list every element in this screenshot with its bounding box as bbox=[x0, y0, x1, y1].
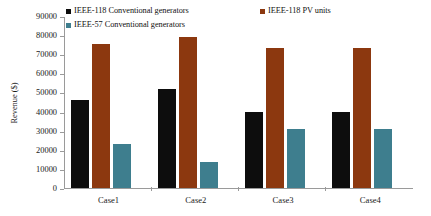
bar-group-bars bbox=[326, 17, 413, 188]
bar-group bbox=[65, 17, 152, 188]
y-tick-mark bbox=[60, 55, 64, 56]
y-tick: 40000 bbox=[18, 113, 64, 114]
bar[interactable] bbox=[287, 129, 305, 188]
bar-group-bars bbox=[65, 17, 152, 188]
y-tick: 50000 bbox=[18, 93, 64, 94]
bar-group-bars bbox=[239, 17, 326, 188]
bar[interactable] bbox=[179, 37, 197, 188]
y-tick-label: 40000 bbox=[36, 107, 57, 118]
legend-item-ieee118-pv: IEEE-118 PV units bbox=[260, 6, 331, 16]
y-tick: 90000 bbox=[18, 17, 64, 18]
y-tick: 10000 bbox=[18, 170, 64, 171]
x-axis-category-labels: Case1Case2Case3Case4 bbox=[65, 194, 414, 210]
x-axis-category-label: Case2 bbox=[152, 194, 239, 210]
y-tick-label: 20000 bbox=[36, 145, 57, 156]
y-tick-label: 80000 bbox=[36, 30, 57, 41]
y-tick: 80000 bbox=[18, 36, 64, 37]
bar[interactable] bbox=[113, 144, 131, 188]
legend-label: IEEE-118 PV units bbox=[268, 6, 331, 16]
bar[interactable] bbox=[200, 162, 218, 188]
y-tick-mark bbox=[60, 17, 64, 18]
bar-group bbox=[239, 17, 326, 188]
plot-area: Revenue ($) 0100002000030000400005000060… bbox=[64, 17, 413, 189]
y-axis-title: Revenue ($) bbox=[10, 82, 19, 123]
y-tick-label: 10000 bbox=[36, 164, 57, 175]
x-axis-category-label: Case3 bbox=[240, 194, 327, 210]
y-tick: 60000 bbox=[18, 74, 64, 75]
y-tick-mark bbox=[60, 189, 64, 190]
y-tick: 70000 bbox=[18, 55, 64, 56]
y-tick-label: 30000 bbox=[36, 126, 57, 137]
bar-chart: IEEE-118 Conventional generators IEEE-11… bbox=[0, 0, 431, 216]
y-tick-mark bbox=[60, 151, 64, 152]
y-tick-label: 70000 bbox=[36, 49, 57, 60]
y-tick-label: 0 bbox=[53, 183, 57, 194]
bar-group bbox=[326, 17, 413, 188]
bar-groups bbox=[65, 17, 413, 188]
y-tick-label: 60000 bbox=[36, 68, 57, 79]
legend-swatch-icon bbox=[66, 9, 71, 14]
bar[interactable] bbox=[92, 44, 110, 188]
y-tick-mark bbox=[60, 132, 64, 133]
y-tick: 30000 bbox=[18, 132, 64, 133]
y-tick-label: 50000 bbox=[36, 87, 57, 98]
legend-label: IEEE-118 Conventional generators bbox=[74, 6, 189, 16]
y-tick: 20000 bbox=[18, 151, 64, 152]
x-axis-category-label: Case4 bbox=[327, 194, 414, 210]
bar[interactable] bbox=[245, 112, 263, 188]
y-tick-mark bbox=[60, 74, 64, 75]
bar-group bbox=[152, 17, 239, 188]
y-tick-mark bbox=[60, 93, 64, 94]
bar[interactable] bbox=[332, 112, 350, 188]
bar[interactable] bbox=[353, 48, 371, 188]
legend-swatch-icon bbox=[260, 9, 265, 14]
bar-group-bars bbox=[152, 17, 239, 188]
bar[interactable] bbox=[71, 100, 89, 188]
y-tick: 0 bbox=[18, 189, 64, 190]
y-tick-label: 90000 bbox=[36, 11, 57, 22]
bar[interactable] bbox=[374, 129, 392, 188]
legend-item-ieee118-conventional: IEEE-118 Conventional generators bbox=[66, 6, 189, 16]
y-tick-mark bbox=[60, 36, 64, 37]
y-tick-mark bbox=[60, 113, 64, 114]
bar[interactable] bbox=[266, 48, 284, 188]
y-tick-mark bbox=[60, 170, 64, 171]
bar[interactable] bbox=[158, 89, 176, 188]
x-axis-category-label: Case1 bbox=[65, 194, 152, 210]
